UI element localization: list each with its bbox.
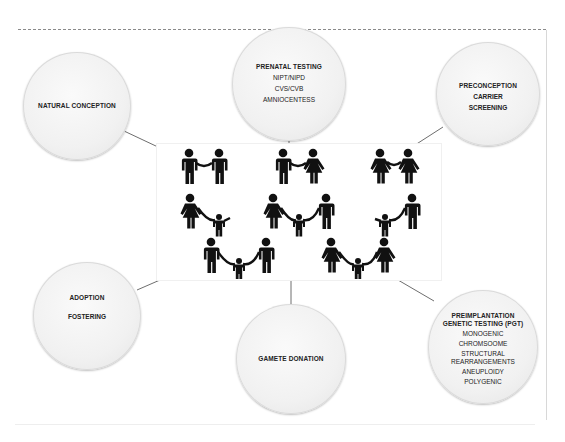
node-item: POLYGENIC [464, 378, 501, 386]
single-mother-with-child-icon [181, 194, 231, 237]
node-item: ANEUPLOIDY [462, 368, 504, 376]
node-title: PRECONCEPTION [459, 82, 517, 90]
node-title: PREIMPLANTATION GENETIC TESTING (PGT) [441, 312, 525, 328]
node-item: FOSTERING [68, 313, 106, 321]
node-item: STRUCTURAL REARRANGEMENTS [448, 350, 518, 366]
node-prenatal-testing: PRENATAL TESTING NIPT/NIPD CVS/CVB AMNIO… [232, 27, 346, 141]
node-preconception-carrier-screening: PRECONCEPTION CARRIER SCREENING [436, 42, 540, 146]
node-title: NATURAL CONCEPTION [38, 102, 116, 110]
node-title: ADOPTION [69, 294, 104, 302]
couple-male-male-icon [182, 149, 228, 184]
family-mother-father-child-icon [264, 194, 335, 237]
node-item: NIPT/NIPD [273, 74, 305, 82]
couple-female-female-icon [371, 149, 420, 184]
node-item: CVS/CVB [275, 85, 304, 93]
connector-pgt [398, 280, 434, 301]
node-item: SCREENING [469, 104, 508, 112]
node-title: PRENATAL TESTING [256, 63, 322, 71]
couple-male-female-icon [276, 149, 325, 184]
node-gamete-donation: GAMETE DONATION [236, 304, 346, 414]
family-icons [156, 143, 440, 279]
node-natural-conception: NATURAL CONCEPTION [23, 52, 131, 160]
family-two-mothers-child-icon [322, 238, 396, 279]
connector-natural-conception [124, 131, 158, 147]
node-item: CHROMSOOME [459, 340, 508, 348]
node-title: GAMETE DONATION [258, 355, 323, 363]
node-item: MONOGENIC [463, 330, 504, 338]
single-father-with-child-icon [375, 194, 421, 237]
node-preimplantation-genetic-testing: PREIMPLANTATION GENETIC TESTING (PGT) MO… [428, 290, 538, 404]
family-two-fathers-child-icon [204, 238, 275, 279]
node-item: AMNIOCENTESS [263, 96, 315, 104]
node-adoption-fostering: ADOPTION FOSTERING [33, 262, 141, 370]
node-item: CARRIER [473, 93, 503, 101]
connector-adoption [137, 280, 160, 290]
